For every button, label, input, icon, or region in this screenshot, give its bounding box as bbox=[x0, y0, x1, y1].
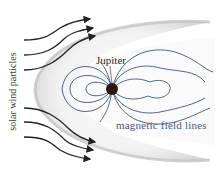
jupiter-planet bbox=[106, 83, 118, 95]
magnetosphere-illustration bbox=[0, 0, 223, 181]
magnetic-field-lines-label: magnetic field lines bbox=[116, 119, 207, 131]
diagram-canvas: Jupiter magnetic field lines solar wind … bbox=[0, 0, 223, 181]
solar-wind-particles-label: solar wind particles bbox=[7, 42, 18, 142]
jupiter-label: Jupiter bbox=[96, 54, 126, 66]
